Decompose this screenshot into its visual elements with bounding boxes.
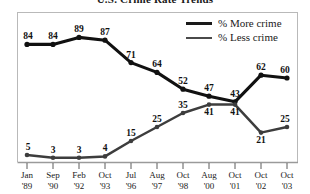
- point-label: 25: [280, 114, 290, 124]
- point-label: 47: [204, 83, 214, 93]
- point-label: 15: [126, 128, 136, 138]
- x-tick-month: Oct: [99, 170, 112, 181]
- legend-line-more-crime-icon: [186, 22, 212, 25]
- chart-legend: % More crime % Less crime: [186, 17, 296, 45]
- point-label: 60: [280, 65, 290, 75]
- x-tick-label: Oct'01: [229, 170, 242, 191]
- x-tick-year: '89: [21, 181, 33, 192]
- x-tick-year: '00: [201, 181, 217, 192]
- x-tick-month: Oct: [229, 170, 242, 181]
- x-tick-month: Jul: [126, 170, 137, 181]
- point-label: 84: [23, 31, 33, 41]
- x-tick-month: Oct: [177, 170, 190, 181]
- x-tick-label: Oct'98: [177, 170, 190, 191]
- x-tick-label: Aug'97: [149, 170, 165, 191]
- x-tick-year: '92: [72, 181, 86, 192]
- point-label: 87: [100, 27, 110, 37]
- point-label: 5: [26, 142, 31, 152]
- x-tick-year: '03: [281, 181, 294, 192]
- point-label: 84: [48, 31, 58, 41]
- point-label: 4: [103, 143, 108, 153]
- x-tick-month: Oct: [255, 170, 268, 181]
- x-tick-month: Feb: [72, 170, 86, 181]
- x-tick-label: Oct'93: [99, 170, 112, 191]
- point-label: 35: [178, 100, 188, 110]
- x-tick-year: '02: [255, 181, 268, 192]
- point-label: 43: [230, 89, 240, 99]
- crime-rate-line-chart: U.S. Crime Rate Trends % More crime % Le…: [0, 0, 310, 194]
- point-label: 62: [256, 62, 266, 72]
- point-label: 3: [77, 145, 82, 155]
- x-tick-month: Aug: [149, 170, 165, 181]
- point-label: 64: [152, 59, 162, 69]
- x-tick-label: Oct'02: [255, 170, 268, 191]
- x-tick-month: Sep: [46, 170, 60, 181]
- x-tick-label: Jul'96: [126, 170, 137, 191]
- x-tick-year: '96: [126, 181, 137, 192]
- x-tick-year: '98: [177, 181, 190, 192]
- point-label: 41: [204, 107, 214, 117]
- x-tick-month: Aug: [201, 170, 217, 181]
- point-label: 89: [74, 24, 84, 34]
- x-tick-year: '93: [99, 181, 112, 192]
- x-tick-month: Oct: [281, 170, 294, 181]
- x-tick-year: '01: [229, 181, 242, 192]
- point-label: 3: [51, 145, 56, 155]
- x-tick-year: '90: [46, 181, 60, 192]
- legend-label-less-crime: % Less crime: [218, 31, 278, 44]
- legend-line-less-crime-icon: [186, 37, 212, 39]
- x-tick-label: Jan'89: [21, 170, 33, 191]
- legend-item-more-crime: % More crime: [186, 17, 296, 30]
- point-label: 52: [178, 76, 188, 86]
- x-tick-label: Sep'90: [46, 170, 60, 191]
- x-tick-year: '97: [149, 181, 165, 192]
- x-tick-label: Aug'00: [201, 170, 217, 191]
- x-tick-label: Oct'03: [281, 170, 294, 191]
- point-label: 41: [230, 107, 240, 117]
- x-tick-label: Feb'92: [72, 170, 86, 191]
- legend-item-less-crime: % Less crime: [186, 31, 296, 44]
- point-label: 25: [152, 114, 162, 124]
- legend-label-more-crime: % More crime: [218, 17, 282, 30]
- point-label: 71: [126, 50, 136, 60]
- x-tick-month: Jan: [21, 170, 33, 181]
- point-label: 21: [256, 135, 266, 145]
